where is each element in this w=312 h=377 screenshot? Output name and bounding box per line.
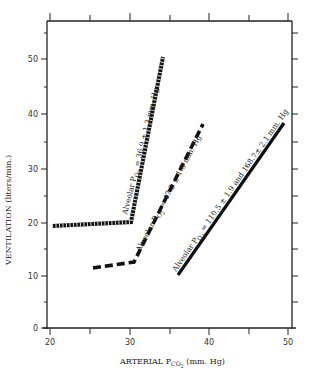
y-tick-40: 40	[28, 110, 38, 119]
chart-canvas: 0 10 20 30 40 50 20 30 40 50 ARTERIAL PC…	[0, 0, 312, 377]
x-tick-40: 40	[204, 338, 214, 347]
x-tick-labels: 20 30 40 50	[45, 338, 293, 347]
top-ticks	[50, 13, 288, 21]
annotation-series-1: Alveolar PO2 = 36.9 ± 1.3 mm. Hg	[120, 87, 163, 218]
x-tick-30: 30	[125, 338, 135, 347]
left-ticks	[41, 33, 47, 328]
y-tick-30: 30	[28, 165, 38, 174]
y-tick-0: 0	[33, 324, 38, 333]
y-axis-title: VENTILATION (liters/min.)	[4, 155, 13, 266]
y-tick-labels: 0 10 20 30 40 50	[28, 55, 38, 333]
right-ticks	[292, 33, 298, 302]
x-axis-title: ARTERIAL PCO2 (mm. Hg)	[119, 357, 225, 369]
annotation-series-3: Alveolar PO2 = 110.5 ± 1.9 and 168.7± 2.…	[170, 107, 293, 275]
y-tick-20: 20	[28, 219, 38, 228]
x-tick-50: 50	[283, 338, 293, 347]
x-tick-20: 20	[45, 338, 55, 347]
y-tick-10: 10	[28, 272, 38, 281]
y-tick-50: 50	[28, 55, 38, 64]
plot-frame	[43, 21, 296, 329]
bottom-ticks	[50, 328, 288, 335]
